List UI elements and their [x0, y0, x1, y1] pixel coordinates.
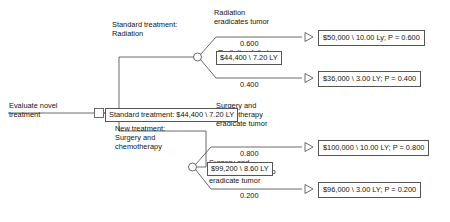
outcome-label-radiation-eradicates-line2: eradicates tumor	[214, 17, 269, 26]
branch-label-new-line1: New treatment:	[115, 124, 165, 133]
outcome-label-surgery-fails-line3: eradicate tumor	[209, 176, 260, 185]
terminal-triangle-2	[305, 74, 313, 83]
branch-label-standard-line1: Standard treatment:	[112, 20, 177, 29]
probability-standard-outcome1: 0.600	[240, 39, 259, 48]
probability-new-outcome1: 0.800	[240, 149, 259, 158]
branch-label-standard-line2: Radiation	[112, 29, 143, 38]
payoff-box-standard-outcome2: $36,000 \ 3.00 LY; P = 0.400	[318, 71, 421, 87]
root-label: Evaluate novel treatment	[9, 101, 57, 119]
branch-label-new-line3: chemotherapy	[115, 142, 162, 151]
rollback-box-new-chance: $99,200 \ 8.60 LY	[207, 162, 273, 176]
outcome-label-radiation-eradicates: Radiation eradicates tumor	[214, 8, 269, 26]
rollback-box-root-decision: Standard treatment: $44,400 \ 7.20 LY	[105, 108, 238, 122]
root-decision-node	[95, 109, 104, 118]
outcome-label-radiation-eradicates-line1: Radiation	[214, 8, 245, 17]
branch-label-standard: Standard treatment: Radiation	[112, 20, 177, 38]
probability-standard-outcome2: 0.400	[240, 80, 259, 89]
payoff-box-new-outcome2: $96,000 \ 3.00 LY; P = 0.200	[318, 182, 421, 198]
branch-standard-line	[104, 57, 194, 113]
branch-label-new-line2: Surgery and	[115, 133, 155, 142]
terminal-triangle-3	[305, 143, 313, 152]
branch-label-new: New treatment: Surgery and chemotherapy	[115, 124, 165, 152]
probability-new-outcome2: 0.200	[240, 191, 259, 200]
terminal-triangle-1	[305, 33, 313, 42]
rollback-box-standard-chance: $44,400 \ 7.20 LY	[216, 51, 282, 65]
payoff-box-new-outcome1: $100,000 \ 10.00 LY; P = 0.800	[318, 140, 429, 156]
payoff-box-standard-outcome1: $50,000 \ 10.00 Ly; P = 0.600	[318, 30, 425, 46]
root-label-text: Evaluate novel treatment	[9, 101, 57, 119]
terminal-triangle-4	[305, 185, 313, 194]
